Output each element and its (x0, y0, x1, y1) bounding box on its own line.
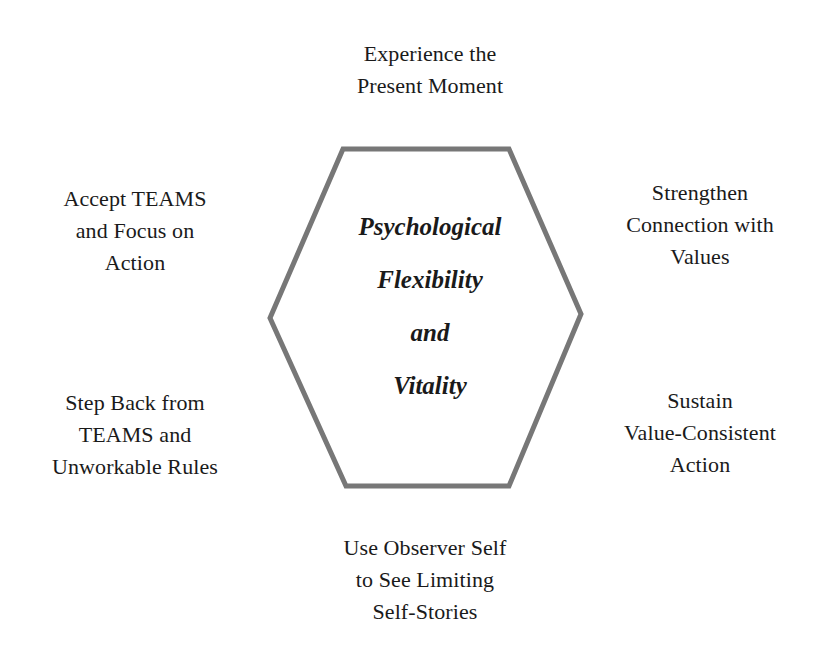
node-line: Step Back from (30, 387, 240, 419)
center-line: Psychological (300, 200, 560, 253)
center-line: Flexibility (300, 253, 560, 306)
node-bottom-right: Sustain Value-Consistent Action (600, 385, 800, 481)
node-line: Unworkable Rules (30, 451, 240, 483)
center-line: Vitality (300, 359, 560, 412)
node-line: Action (30, 247, 240, 279)
node-line: Use Observer Self (310, 532, 540, 564)
node-line: Values (600, 241, 800, 273)
node-line: and Focus on (30, 215, 240, 247)
center-concept: Psychological Flexibility and Vitality (300, 200, 560, 412)
node-top: Experience the Present Moment (330, 38, 530, 102)
node-line: TEAMS and (30, 419, 240, 451)
node-line: Connection with (600, 209, 800, 241)
node-top-left: Accept TEAMS and Focus on Action (30, 183, 240, 279)
node-line: Present Moment (330, 70, 530, 102)
node-line: Experience the (330, 38, 530, 70)
node-bottom-left: Step Back from TEAMS and Unworkable Rule… (30, 387, 240, 483)
node-line: to See Limiting (310, 564, 540, 596)
node-line: Accept TEAMS (30, 183, 240, 215)
node-top-right: Strengthen Connection with Values (600, 177, 800, 273)
center-line: and (300, 306, 560, 359)
node-line: Sustain (600, 385, 800, 417)
node-line: Strengthen (600, 177, 800, 209)
node-line: Self-Stories (310, 596, 540, 628)
node-bottom: Use Observer Self to See Limiting Self-S… (310, 532, 540, 628)
node-line: Value-Consistent (600, 417, 800, 449)
node-line: Action (600, 449, 800, 481)
